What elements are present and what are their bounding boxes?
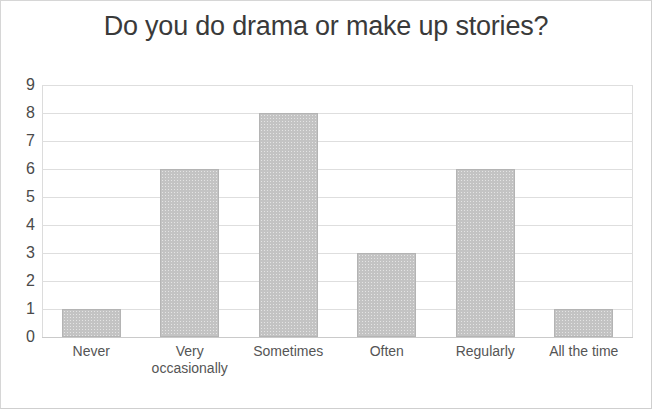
bar[interactable] [259,113,318,337]
y-axis: 9876543210 [1,85,35,337]
x-axis-category-line: Very [141,343,240,360]
y-axis-tick-label: 3 [1,244,35,262]
x-axis-category-line: Often [338,343,437,360]
plot-area-wrapper [42,85,633,337]
y-axis-tick-label: 0 [1,328,35,346]
x-axis-category-label: Never [42,343,141,377]
x-axis: NeverVeryoccasionallySometimesOftenRegul… [42,343,633,377]
y-axis-tick-label: 8 [1,104,35,122]
bar[interactable] [456,169,515,337]
bar-slot [239,85,338,337]
chart-card: Do you do drama or make up stories? 9876… [0,0,652,409]
x-axis-category-label: Regularly [436,343,535,377]
bar[interactable] [62,309,121,337]
bar-slot [436,85,535,337]
bar[interactable] [160,169,219,337]
bar-slot [141,85,240,337]
x-axis-category-line: Sometimes [239,343,338,360]
bar[interactable] [554,309,613,337]
bar-slot [338,85,437,337]
y-axis-tick-label: 6 [1,160,35,178]
x-axis-category-label: All the time [535,343,634,377]
y-axis-tick-label: 1 [1,300,35,318]
y-axis-tick-label: 2 [1,272,35,290]
bar-slot [535,85,634,337]
bar[interactable] [357,253,416,337]
bar-slot [42,85,141,337]
x-axis-category-label: Sometimes [239,343,338,377]
chart-title: Do you do drama or make up stories? [1,11,651,42]
y-axis-tick-label: 5 [1,188,35,206]
x-axis-category-line: All the time [535,343,634,360]
y-axis-tick-label: 4 [1,216,35,234]
axis-baseline [42,337,633,338]
x-axis-category-label: Often [338,343,437,377]
y-axis-tick-label: 7 [1,132,35,150]
x-axis-category-line: occasionally [141,360,240,377]
y-axis-tick-label: 9 [1,76,35,94]
x-axis-category-label: Veryoccasionally [141,343,240,377]
bar-series [42,85,633,337]
x-axis-category-line: Never [42,343,141,360]
x-axis-category-line: Regularly [436,343,535,360]
